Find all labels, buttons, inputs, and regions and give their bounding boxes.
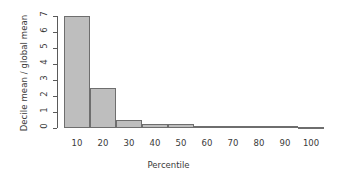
x-tick-label-30: 30 [124,138,135,148]
bar-20[interactable] [90,88,116,128]
x-tick-label-80: 80 [254,138,265,148]
x-tick-label-90: 90 [280,138,291,148]
y-tick-label-1: 1 [39,102,49,118]
y-tick-label-3: 3 [39,70,49,86]
bar-100[interactable] [298,127,324,129]
y-tick-label-2: 2 [39,86,49,102]
bar-60[interactable] [194,126,220,128]
x-tick-label-40: 40 [150,138,161,148]
bar-70[interactable] [220,126,246,128]
plot-area: 0 1 2 3 4 5 6 7 10 20 30 40 50 60 70 [0,0,337,188]
y-tick-label-0: 0 [39,118,49,134]
x-tick-label-70: 70 [228,138,239,148]
y-axis-line [57,16,58,128]
y-tick-1 [53,112,57,113]
y-tick-3 [53,80,57,81]
bar-90[interactable] [272,126,298,128]
bar-50[interactable] [168,124,194,128]
x-axis-title: Percentile [0,160,337,170]
chart-figure: Decile mean / global mean 0 1 2 3 4 5 6 … [0,0,337,188]
y-tick-7 [53,16,57,17]
bar-80[interactable] [246,126,272,128]
y-tick-label-5: 5 [39,38,49,54]
x-tick-label-100: 100 [303,138,319,148]
y-tick-label-6: 6 [39,22,49,38]
y-tick-0 [53,128,57,129]
y-tick-5 [53,48,57,49]
bar-30[interactable] [116,120,142,128]
y-tick-label-7: 7 [39,6,49,22]
y-tick-4 [53,64,57,65]
x-tick-label-50: 50 [176,138,187,148]
y-tick-2 [53,96,57,97]
y-tick-label-4: 4 [39,54,49,70]
y-tick-6 [53,32,57,33]
bar-10[interactable] [64,16,90,128]
x-tick-label-20: 20 [98,138,109,148]
x-tick-label-10: 10 [72,138,83,148]
bar-40[interactable] [142,124,168,128]
x-tick-label-60: 60 [202,138,213,148]
